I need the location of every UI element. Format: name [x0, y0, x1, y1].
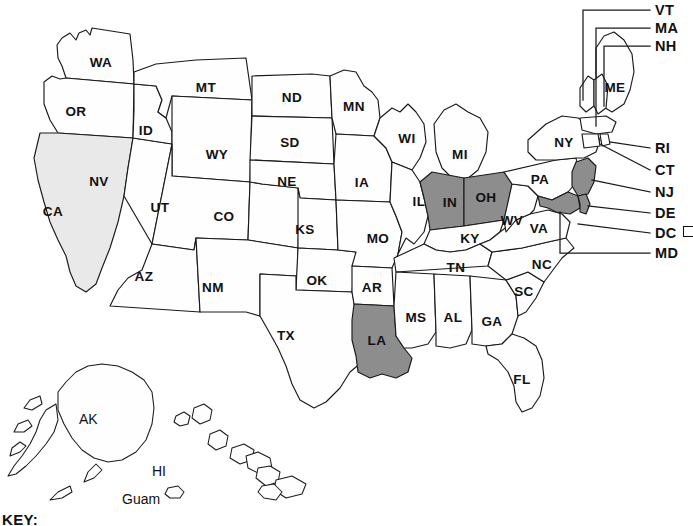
state-label-MN: MN — [343, 99, 365, 114]
state-label-NC: NC — [532, 257, 552, 272]
state-label-WV: WV — [501, 213, 524, 228]
callout-text-DE: DE — [655, 205, 676, 221]
state-label-IA: IA — [355, 175, 369, 190]
state-label-UT: UT — [151, 200, 170, 215]
callout-text-MA: MA — [655, 20, 678, 36]
state-label-NM: NM — [202, 280, 224, 295]
callout-label-NH[interactable]: NH — [655, 39, 677, 54]
callout-text-NH: NH — [655, 38, 677, 54]
state-label-OR: OR — [65, 104, 86, 119]
state-label-KS: KS — [295, 222, 315, 237]
callout-text-RI: RI — [655, 140, 670, 156]
callout-text-DC: DC — [655, 225, 677, 241]
state-shape-CO[interactable] — [248, 182, 300, 248]
state-label-TX: TX — [277, 328, 295, 343]
state-shape-MA[interactable] — [580, 116, 616, 134]
alaska-shape[interactable] — [8, 364, 154, 500]
state-label-WA: WA — [90, 55, 113, 70]
state-label-MS: MS — [405, 310, 426, 325]
leader-line-DC — [578, 224, 650, 233]
callout-label-MA[interactable]: MA — [655, 21, 678, 36]
territory-label-AK: AK — [79, 412, 98, 426]
leader-line-NJ — [592, 180, 650, 192]
callout-label-NJ[interactable]: NJ — [655, 185, 674, 200]
hawaii-shapes[interactable] — [174, 404, 306, 500]
state-label-WY: WY — [206, 147, 229, 162]
state-shape-VT[interactable] — [580, 76, 594, 112]
callout-label-DC[interactable]: DC — [655, 226, 693, 241]
state-shape-OR[interactable] — [44, 76, 134, 138]
state-label-MI: MI — [452, 147, 468, 162]
state-label-OK: OK — [306, 273, 327, 288]
leader-line-CT — [600, 144, 650, 170]
callout-label-CT[interactable]: CT — [655, 163, 675, 178]
callout-text-VT: VT — [655, 2, 674, 18]
state-label-ND: ND — [282, 90, 302, 105]
state-label-LA: LA — [368, 333, 387, 348]
callout-label-MD[interactable]: MD — [655, 246, 678, 261]
state-label-ME: ME — [604, 80, 625, 95]
state-label-NE: NE — [277, 174, 297, 189]
state-label-CA: CA — [43, 204, 63, 219]
state-label-NY: NY — [554, 135, 574, 150]
state-label-IL: IL — [413, 194, 426, 209]
state-label-MT: MT — [196, 80, 217, 95]
leader-line-RI — [610, 142, 650, 148]
state-label-KY: KY — [460, 231, 480, 246]
key-label: KEY: — [2, 512, 38, 526]
state-shape-MI[interactable] — [434, 104, 488, 180]
state-label-VA: VA — [530, 221, 549, 236]
callout-text-NJ: NJ — [655, 184, 674, 200]
state-shape-AZ[interactable] — [110, 238, 200, 312]
state-shape-CT[interactable] — [582, 134, 600, 148]
us-map-svg: WAORCANVIDMTWYUTAZCONMNDSDNEKSOKTXMNIAMO… — [0, 0, 693, 526]
state-label-WI: WI — [398, 131, 415, 146]
state-label-AL: AL — [444, 310, 463, 325]
state-label-AZ: AZ — [135, 269, 154, 284]
state-label-SC: SC — [514, 284, 534, 299]
callout-label-DE[interactable]: DE — [655, 206, 676, 221]
state-label-SD: SD — [280, 135, 300, 150]
state-label-CO: CO — [213, 209, 234, 224]
callout-text-CT: CT — [655, 162, 675, 178]
callout-label-RI[interactable]: RI — [655, 141, 670, 156]
state-label-FL: FL — [513, 372, 530, 387]
dc-square-icon — [683, 226, 693, 237]
state-label-ID: ID — [139, 123, 153, 138]
state-shape-WY[interactable] — [172, 96, 252, 182]
state-label-MO: MO — [367, 231, 390, 246]
territory-label-Guam: Guam — [122, 492, 160, 506]
us-map-figure: WAORCANVIDMTWYUTAZCONMNDSDNEKSOKTXMNIAMO… — [0, 0, 693, 526]
leader-line-DE — [588, 206, 650, 213]
state-label-AR: AR — [362, 280, 382, 295]
state-label-TN: TN — [447, 260, 466, 275]
territory-label-HI: HI — [152, 464, 166, 478]
state-label-OH: OH — [475, 190, 496, 205]
state-label-GA: GA — [481, 314, 502, 329]
state-shape-DE[interactable] — [578, 194, 590, 214]
state-shape-NJ[interactable] — [572, 158, 596, 196]
guam-shape[interactable] — [165, 486, 184, 498]
state-label-IN: IN — [443, 195, 457, 210]
callout-label-VT[interactable]: VT — [655, 3, 674, 18]
callout-text-MD: MD — [655, 245, 678, 261]
state-label-PA: PA — [531, 172, 550, 187]
state-label-NV: NV — [89, 174, 109, 189]
